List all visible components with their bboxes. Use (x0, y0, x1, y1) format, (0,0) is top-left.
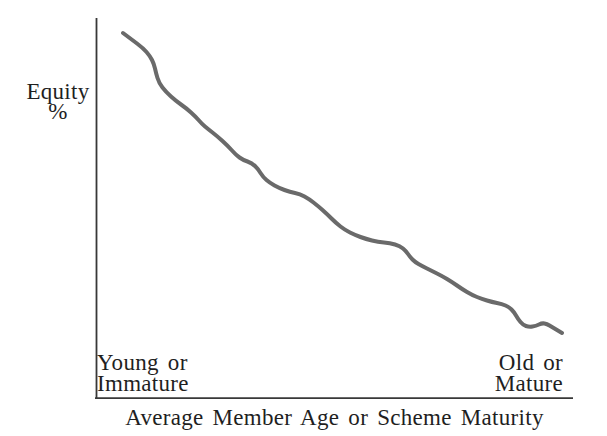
young-annotation-line2: Immature (97, 373, 189, 394)
old-annotation-line1: Old or (495, 352, 563, 373)
y-axis-label-percent: % (18, 102, 98, 122)
x-axis-label: Average Member Age or Scheme Maturity (96, 405, 573, 431)
old-annotation-line2: Mature (495, 373, 563, 394)
pension-equity-allocation-chart: Equity % Young or Immature Old or Mature… (0, 0, 607, 436)
x-axis-start-annotation: Young or Immature (97, 352, 189, 394)
young-annotation-line1: Young or (97, 352, 189, 373)
y-axis-label: Equity % (18, 82, 98, 122)
equity-curve-line (123, 33, 562, 333)
x-axis-end-annotation: Old or Mature (495, 352, 563, 394)
